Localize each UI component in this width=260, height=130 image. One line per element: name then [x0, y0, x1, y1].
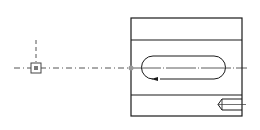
slot-outline[interactable]: [142, 56, 226, 79]
midpoint-marker[interactable]: [129, 66, 134, 71]
direction-arrow-icon: [151, 77, 158, 81]
reference-point-marker[interactable]: [31, 63, 41, 73]
cad-drawing-canvas[interactable]: [0, 0, 260, 130]
